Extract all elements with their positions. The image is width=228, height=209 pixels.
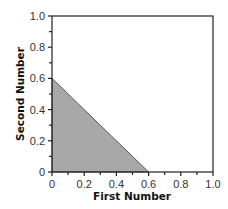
x-tick-label: 0	[49, 178, 55, 190]
y-tick-label: 0	[39, 166, 45, 178]
x-tick-label: 0.8	[173, 178, 188, 190]
chart: 00.20.40.60.81.0 00.20.40.60.81.0 First …	[0, 0, 228, 209]
x-tick-label: 0.2	[77, 178, 92, 190]
shaded-triangle	[52, 78, 149, 172]
y-axis-title: Second Number	[14, 46, 26, 141]
y-tick-label: 0.8	[30, 41, 45, 53]
y-tick-label: 0.2	[30, 135, 45, 147]
x-tick-label: 0.6	[141, 178, 156, 190]
x-axis-ticks: 00.20.40.60.81.0	[49, 172, 221, 190]
x-axis-title: First Number	[93, 190, 172, 202]
y-axis-ticks: 00.20.40.60.81.0	[30, 10, 52, 178]
x-tick-label: 0.4	[109, 178, 124, 190]
y-tick-label: 1.0	[30, 10, 45, 22]
x-tick-label: 1.0	[205, 178, 220, 190]
y-tick-label: 0.4	[30, 104, 45, 116]
y-tick-label: 0.6	[30, 72, 45, 84]
shaded-triangle-region	[52, 78, 149, 172]
